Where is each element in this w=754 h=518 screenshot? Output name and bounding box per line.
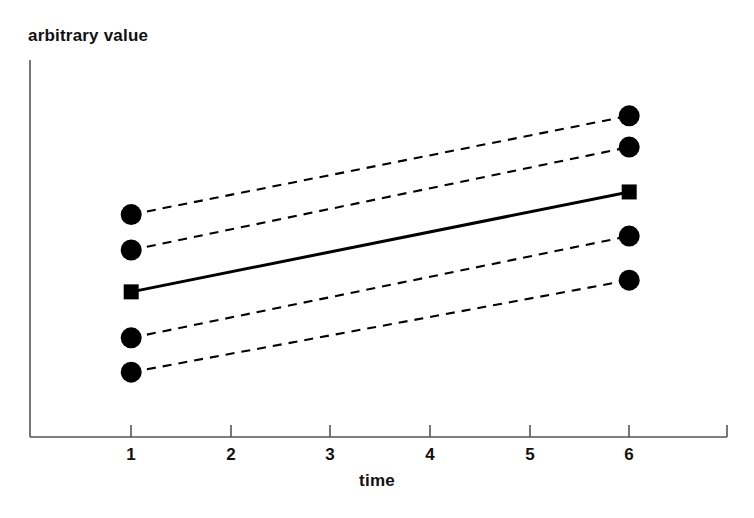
data-markers-group: [121, 105, 640, 382]
marker-circle: [619, 226, 640, 247]
series-line-subject-3: [131, 236, 629, 338]
marker-circle: [121, 240, 142, 261]
marker-circle: [121, 204, 142, 225]
marker-square: [124, 284, 139, 299]
marker-circle: [121, 327, 142, 348]
x-axis-ticks: [131, 425, 629, 437]
series-line-mean: [131, 192, 629, 292]
x-tick-label-6: 6: [609, 445, 649, 465]
series-line-subject-2: [131, 147, 629, 250]
x-tick-label-5: 5: [510, 445, 550, 465]
marker-square: [622, 184, 637, 199]
x-tick-label-1: 1: [111, 445, 151, 465]
series-line-subject-1: [131, 116, 629, 215]
mean-line-group: [131, 192, 629, 292]
marker-circle: [619, 105, 640, 126]
x-axis-title: time: [0, 471, 754, 491]
subject-lines-group: [131, 116, 629, 372]
chart-figure: arbitrary value 1 2 3 4 5 6 time: [0, 0, 754, 518]
plot-area: [0, 0, 754, 518]
x-tick-label-2: 2: [211, 445, 251, 465]
marker-circle: [619, 137, 640, 158]
marker-circle: [619, 270, 640, 291]
series-line-subject-4: [131, 280, 629, 372]
x-tick-label-4: 4: [410, 445, 450, 465]
x-tick-label-3: 3: [310, 445, 350, 465]
marker-circle: [121, 362, 142, 383]
